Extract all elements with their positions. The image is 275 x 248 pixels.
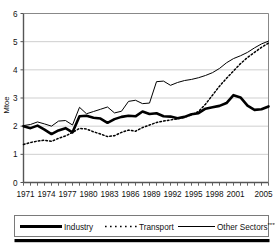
x-tick-label: 1983: [100, 190, 119, 199]
x-tick-label: 1980: [79, 190, 98, 199]
x-tick-label: 1992: [163, 190, 182, 199]
legend-label-industry: Industry: [64, 223, 94, 232]
legend-label-transport: Transport: [139, 223, 174, 232]
axis-title-y: Mtoe: [2, 97, 11, 114]
x-tick-label: 1995: [184, 190, 203, 199]
x-tick-label: 2005: [254, 190, 273, 199]
y-tick-label: 1: [13, 150, 18, 159]
x-tick-label: 1971: [16, 190, 35, 199]
y-tick-label: 5: [13, 38, 18, 47]
x-tick-label: 1998: [205, 190, 224, 199]
y-axis-label: Mtoe: [2, 97, 11, 114]
chart-container: 0123456 19711974197719801983198619891992…: [0, 0, 275, 248]
y-tick-label: 4: [13, 66, 18, 75]
series-group: [24, 41, 269, 144]
x-tick-label: 1977: [58, 190, 77, 199]
x-tick-label: 2001: [226, 190, 245, 199]
legend-footnote-marker: ****: [268, 222, 275, 228]
y-tick-label: 0: [13, 179, 18, 188]
gridlines: [24, 14, 269, 155]
x-tick-label: 1989: [142, 190, 161, 199]
series-line-industry: [24, 95, 269, 134]
y-tick-labels: 0123456: [13, 10, 18, 188]
y-tick-label: 6: [13, 10, 18, 19]
x-tick-labels: 1971197419771980198319861989199219951998…: [16, 190, 273, 199]
line-chart: 0123456 19711974197719801983198619891992…: [0, 0, 275, 248]
x-tick-label: 1986: [121, 190, 140, 199]
y-tick-label: 3: [13, 94, 18, 103]
legend-label-other-sectors: Other Sectors****: [217, 222, 275, 232]
x-tick-label: 1974: [37, 190, 56, 199]
y-tick-label: 2: [13, 122, 18, 131]
